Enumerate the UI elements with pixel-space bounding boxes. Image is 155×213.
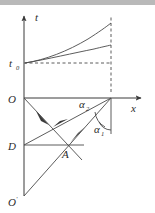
t-zero-label: t bbox=[9, 57, 13, 69]
origin-prime-tick: ' bbox=[16, 195, 18, 202]
t-axis-label: t bbox=[35, 11, 39, 23]
top-gray-band bbox=[0, 0, 155, 5]
spacetime-diagram-svg: t x t 0 O D A O ' α 2 α 1 bbox=[0, 0, 155, 213]
point-D-label: D bbox=[7, 140, 16, 152]
alpha1-label: α bbox=[94, 123, 100, 135]
origin-prime-label: O bbox=[8, 196, 16, 208]
point-A-label: A bbox=[61, 148, 69, 160]
ray-from-D-to-P bbox=[24, 98, 111, 145]
curve-lower bbox=[25, 45, 111, 63]
ray-D-arrowhead bbox=[53, 119, 68, 127]
ray-Oprime-arrowhead bbox=[70, 127, 85, 143]
alpha1-arc bbox=[99, 122, 111, 130]
alpha2-label: α bbox=[79, 98, 85, 110]
t-zero-subscript: 0 bbox=[16, 64, 20, 71]
alpha1-subscript: 1 bbox=[101, 130, 104, 137]
alpha2-subscript: 2 bbox=[86, 105, 90, 112]
curve-upper bbox=[25, 23, 111, 63]
figure-container: t x t 0 O D A O ' α 2 α 1 bbox=[0, 0, 155, 213]
origin-label: O bbox=[8, 93, 16, 105]
x-axis-label: x bbox=[130, 102, 136, 114]
